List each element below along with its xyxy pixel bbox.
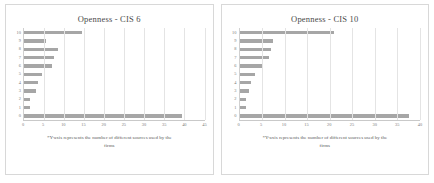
gridline — [164, 28, 165, 120]
footnote-line-2: firms — [232, 142, 419, 150]
bar — [240, 73, 256, 76]
bar — [24, 114, 182, 117]
x-tick-label: 35 — [395, 123, 399, 127]
bar — [240, 106, 247, 109]
x-tick-label: 5 — [260, 123, 262, 127]
y-tick-label: 3 — [12, 87, 23, 95]
bar — [240, 39, 274, 42]
y-tick-label: 4 — [228, 79, 239, 87]
bar — [24, 56, 54, 59]
footnote-cis10: *Y-axis represents the number of differe… — [232, 134, 419, 149]
y-tick-label: 6 — [228, 62, 239, 70]
y-tick-label: 5 — [12, 71, 23, 79]
bar — [24, 106, 30, 109]
x-tick-label: 25 — [122, 123, 126, 127]
y-axis-labels-cis6: 109876543210 — [12, 28, 23, 120]
x-tick-label: 0 — [22, 123, 24, 127]
y-tick-label: 7 — [228, 54, 239, 62]
y-axis-labels-cis10: 109876543210 — [228, 28, 239, 120]
bar-row — [24, 46, 205, 54]
bar-row — [24, 71, 205, 79]
bar-row — [24, 54, 205, 62]
chart-title-cis10: Openness - CIS 10 — [224, 14, 427, 24]
bar — [240, 98, 247, 101]
x-tick-label: 0 — [237, 123, 239, 127]
footnote-line-2: firms — [16, 142, 203, 150]
x-axis-cis10: 0510152025303540 — [239, 120, 421, 131]
gridline — [352, 28, 353, 120]
bar — [24, 48, 58, 51]
x-tick-label: 15 — [304, 123, 308, 127]
chart-title-cis6: Openness - CIS 6 — [8, 14, 211, 24]
footnote-cis6: *Y-axis represents the number of differe… — [16, 134, 203, 149]
y-tick-label: 9 — [228, 37, 239, 45]
bar — [240, 64, 263, 67]
y-tick-label: 10 — [228, 29, 239, 37]
y-tick-label: 9 — [12, 37, 23, 45]
gridline — [84, 28, 85, 120]
bar-series-cis6 — [24, 29, 205, 120]
plot-canvas-cis10 — [239, 28, 421, 120]
gridline — [64, 28, 65, 120]
chart-panel-cis6: Openness - CIS 6 109876543210 0510152025… — [5, 4, 214, 175]
bar-row — [24, 37, 205, 45]
gridline — [375, 28, 376, 120]
y-tick-label: 2 — [228, 96, 239, 104]
gridline — [205, 28, 206, 120]
y-tick-label: 2 — [12, 96, 23, 104]
x-tick-label: 20 — [327, 123, 331, 127]
bar-row — [24, 112, 205, 120]
bar-row — [24, 104, 205, 112]
x-tick-label: 10 — [61, 123, 65, 127]
x-tick-label: 45 — [202, 123, 206, 127]
bar — [24, 81, 38, 84]
x-tick-label: 20 — [101, 123, 105, 127]
chart-panel-cis10: Openness - CIS 10 109876543210 051015202… — [221, 4, 430, 175]
y-tick-label: 4 — [12, 79, 23, 87]
bar — [24, 89, 36, 92]
bar — [24, 39, 46, 42]
x-tick-label: 15 — [81, 123, 85, 127]
plot-area-cis6: 109876543210 — [12, 28, 205, 120]
plot-canvas-cis6 — [23, 28, 205, 120]
x-tick-label: 10 — [282, 123, 286, 127]
gridline — [184, 28, 185, 120]
bar — [240, 31, 335, 34]
bar-row — [24, 96, 205, 104]
bar — [24, 98, 30, 101]
bar — [24, 64, 52, 67]
x-tick-label: 5 — [42, 123, 44, 127]
x-axis-cis6: 051015202530354045 — [23, 120, 205, 131]
bar — [24, 31, 82, 34]
y-tick-label: 7 — [12, 54, 23, 62]
gridline — [307, 28, 308, 120]
y-tick-label: 8 — [12, 46, 23, 54]
gridline — [330, 28, 331, 120]
bar-row — [24, 62, 205, 70]
bar-row — [24, 79, 205, 87]
footnote-line-1: *Y-axis represents the number of differe… — [16, 134, 203, 142]
x-tick-label: 40 — [182, 123, 186, 127]
y-tick-label: 1 — [12, 104, 23, 112]
gridline — [420, 28, 421, 120]
bar — [24, 73, 42, 76]
gridline — [104, 28, 105, 120]
x-tick-label: 25 — [350, 123, 354, 127]
x-tick-label: 30 — [142, 123, 146, 127]
y-tick-label: 1 — [228, 104, 239, 112]
gridline — [397, 28, 398, 120]
y-tick-label: 0 — [228, 112, 239, 120]
bar — [240, 81, 251, 84]
y-tick-label: 5 — [228, 71, 239, 79]
bar — [240, 56, 269, 59]
y-tick-label: 10 — [12, 29, 23, 37]
bar — [240, 89, 249, 92]
y-tick-label: 3 — [228, 87, 239, 95]
gridline — [44, 28, 45, 120]
gridline — [262, 28, 263, 120]
figure-sheet: Openness - CIS 6 109876543210 0510152025… — [0, 0, 434, 183]
gridline — [285, 28, 286, 120]
bar — [240, 114, 409, 117]
footnote-line-1: *Y-axis represents the number of differe… — [232, 134, 419, 142]
y-tick-label: 6 — [12, 62, 23, 70]
